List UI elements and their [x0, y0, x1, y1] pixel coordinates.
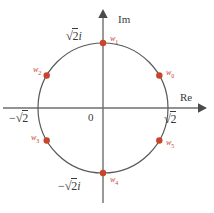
- root-label-w1: w1: [110, 35, 118, 45]
- imaginary-axis-label: Im: [118, 14, 130, 25]
- tick-label-negative-imaginary: −√2i: [58, 180, 81, 193]
- root-label-w0: w0: [166, 69, 174, 79]
- tick-label-negative-real: −√2: [9, 112, 28, 125]
- figure-canvas: Im Re 0 √2i −√2i −√2 √2 w0 w1 w2 w3 w4 w…: [0, 0, 214, 213]
- real-axis-arrowhead: [198, 103, 207, 113]
- root-label-w4-sub: 4: [115, 180, 118, 186]
- root-label-w3-sub: 3: [36, 138, 39, 144]
- root-label-w2-sub: 2: [38, 70, 41, 76]
- root-label-w0-sub: 0: [171, 73, 174, 79]
- origin-label: 0: [88, 112, 94, 123]
- root-label-w1-sub: 1: [115, 39, 118, 45]
- root-label-w4: w4: [110, 176, 118, 186]
- root-label-w5: w5: [166, 139, 174, 149]
- root-point-w4[interactable]: [100, 170, 106, 176]
- root-label-w2: w2: [33, 66, 41, 76]
- root-point-w3[interactable]: [44, 137, 50, 143]
- real-axis-label: Re: [180, 92, 192, 103]
- tick-label-positive-real: √2: [164, 113, 176, 126]
- root-point-w5[interactable]: [156, 137, 162, 143]
- complex-plane-plot: [0, 0, 214, 213]
- root-point-w2[interactable]: [44, 72, 50, 78]
- root-label-w5-sub: 5: [171, 143, 174, 149]
- root-point-w0[interactable]: [156, 72, 162, 78]
- root-point-w1[interactable]: [100, 40, 106, 46]
- root-label-w3: w3: [31, 134, 39, 144]
- tick-label-positive-imaginary: √2i: [66, 30, 82, 43]
- imaginary-axis-arrowhead: [98, 9, 107, 18]
